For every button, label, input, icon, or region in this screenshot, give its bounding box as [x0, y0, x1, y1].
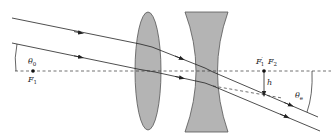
lower-ray [12, 43, 320, 131]
construction-line [213, 86, 282, 98]
F1-label: F1 [27, 75, 37, 85]
theta0-label: θ0 [28, 57, 37, 67]
diverging-lens [185, 12, 228, 132]
lower-ray-arrow-1 [74, 56, 81, 58]
focal-point-F1 [31, 69, 35, 73]
thetae-label: θe [295, 91, 303, 101]
telescope-ray-diagram: θ0 F1 F′1 F2 h θe [0, 0, 331, 140]
upper-ray-arrow-3 [284, 102, 291, 105]
F2-label: F2 [267, 57, 277, 67]
h-label: h [267, 78, 272, 87]
upper-ray [12, 18, 318, 117]
thetae-arc [307, 71, 312, 112]
theta0-arc [15, 44, 17, 71]
lower-ray-arrow-2 [175, 76, 182, 78]
lower-ray-arrow-3 [280, 114, 287, 117]
F1prime-label: F′1 [255, 56, 264, 67]
upper-ray-arrow-2 [175, 56, 182, 59]
